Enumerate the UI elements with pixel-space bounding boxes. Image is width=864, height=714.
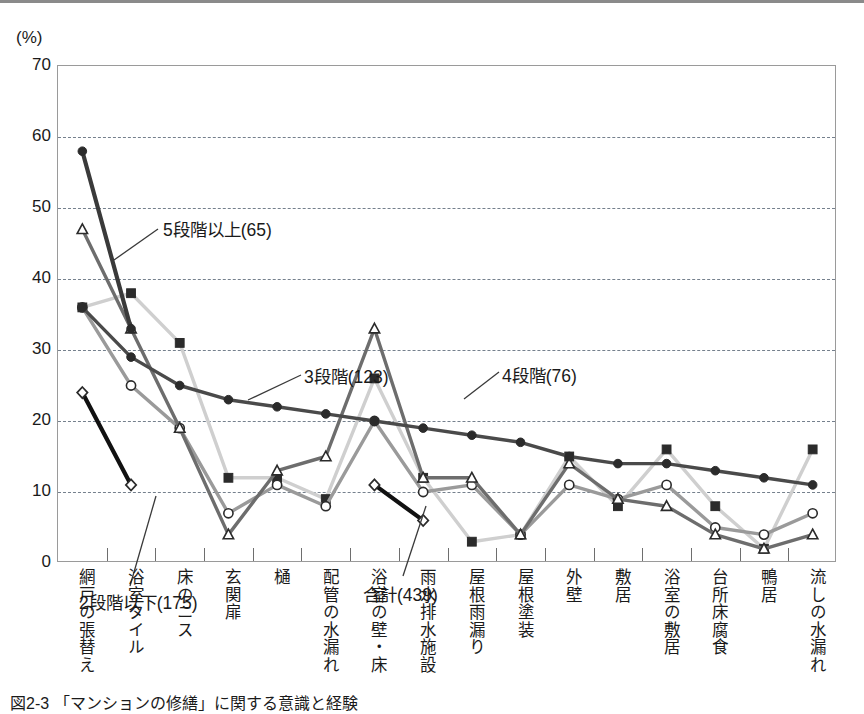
x-axis-category-label: 網戸の張替え [68, 568, 94, 673]
data-point-marker [808, 481, 817, 490]
figure-caption: 図2-3 「マンションの修繕」に関する意識と経験 [10, 690, 358, 714]
x-axis-category-label: 敷居 [604, 568, 630, 603]
x-axis-category-label: 屋根雨漏り [458, 568, 484, 656]
y-axis-unit-label: (%) [16, 28, 42, 48]
x-axis-category-labels: 網戸の張替え浴室タイル床のニス玄関扉樋配管の水漏れ浴室の壁・床雨水排水施設屋根雨… [57, 568, 836, 688]
data-point-marker [565, 480, 574, 489]
data-point-marker [224, 509, 233, 518]
x-axis-category-label: 屋根塗装 [507, 568, 533, 638]
data-point-marker [760, 474, 769, 483]
y-axis-tick-label: 70 [5, 56, 51, 73]
data-point-marker [662, 459, 671, 468]
data-point-marker [711, 502, 720, 511]
series-label-5段階以上65: 5段階以上(65) [163, 216, 272, 241]
data-point-marker [321, 502, 330, 511]
data-point-marker [272, 480, 281, 489]
x-axis-category-label: 外壁 [555, 568, 581, 603]
annotation-leader-line [248, 375, 301, 400]
x-axis-category-label: 配管の水漏れ [312, 568, 338, 673]
data-point-marker [711, 466, 720, 475]
x-axis-category-label: 床のニス [166, 568, 192, 638]
data-point-marker [224, 395, 233, 404]
data-point-marker [808, 509, 817, 518]
x-axis-category-label: 雨水排水施設 [409, 568, 435, 673]
x-axis-category-label: 玄関扉 [214, 568, 240, 621]
data-point-marker [78, 303, 87, 312]
data-point-marker [127, 324, 136, 333]
series-label-3段階123: 3段階(123) [304, 363, 389, 388]
data-point-marker [419, 487, 428, 496]
data-point-marker [614, 459, 623, 468]
plot-area: 5段階以上(65)3段階(123)4段階(76)2段階以下(175)合計(439… [57, 65, 836, 562]
data-point-marker [467, 537, 476, 546]
data-point-marker [759, 530, 768, 539]
data-point-marker [516, 438, 525, 447]
data-point-marker [662, 445, 671, 454]
x-axis-category-label: 台所床腐食 [701, 568, 727, 656]
data-series-layer [58, 66, 837, 563]
data-point-marker [175, 381, 184, 390]
data-point-marker [370, 417, 379, 426]
y-axis-tick-label: 60 [5, 127, 51, 144]
y-axis-tick-label: 50 [5, 198, 51, 215]
data-point-marker [662, 480, 671, 489]
data-point-marker [468, 431, 477, 440]
annotation-leader-line [114, 229, 158, 260]
data-point-marker [369, 323, 379, 333]
series-label-4段階76: 4段階(76) [502, 362, 577, 387]
y-axis-tick-label: 30 [5, 340, 51, 357]
data-point-marker [321, 410, 330, 419]
data-point-marker [419, 424, 428, 433]
y-axis-tick-label: 0 [5, 553, 51, 570]
data-point-marker [175, 339, 184, 348]
x-axis-category-label: 鴨居 [750, 568, 776, 603]
x-axis-category-label: 浴室の敷居 [653, 568, 679, 656]
x-axis-category-label: 樋 [263, 568, 289, 586]
y-axis-tick-label: 40 [5, 269, 51, 286]
data-point-marker [565, 452, 574, 461]
data-point-marker [77, 224, 87, 234]
data-point-marker [273, 403, 282, 412]
data-point-marker [127, 289, 136, 298]
x-axis-category-label: 流しの水漏れ [799, 568, 825, 673]
data-point-marker [78, 147, 87, 156]
annotation-leader-line [464, 372, 499, 399]
data-point-marker [126, 381, 135, 390]
x-axis-category-label: 浴室タイル [117, 568, 143, 656]
y-axis-tick-label: 10 [5, 482, 51, 499]
x-axis-category-label: 浴室の壁・床 [360, 568, 386, 673]
top-divider-rule [0, 0, 864, 3]
data-point-marker [127, 353, 136, 362]
data-point-marker [808, 445, 817, 454]
y-axis-tick-label: 20 [5, 411, 51, 428]
data-point-marker [224, 473, 233, 482]
